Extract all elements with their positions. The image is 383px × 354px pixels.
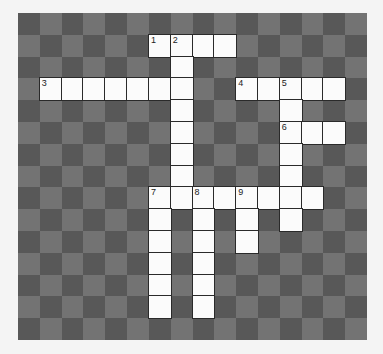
blocked-square	[236, 253, 258, 275]
crossword-cell[interactable]	[171, 144, 193, 166]
crossword-cell[interactable]: 1	[149, 35, 171, 57]
blocked-square	[323, 57, 345, 79]
blocked-square	[83, 318, 105, 340]
crossword-cell[interactable]	[149, 275, 171, 297]
blocked-square	[236, 296, 258, 318]
blocked-square	[236, 57, 258, 79]
crossword-cell[interactable]	[171, 100, 193, 122]
crossword-cell[interactable]	[214, 187, 236, 209]
crossword-cell[interactable]	[193, 253, 215, 275]
crossword-cell[interactable]	[280, 209, 302, 231]
crossword-cell[interactable]	[127, 78, 149, 100]
crossword-cell[interactable]	[149, 209, 171, 231]
blocked-square	[214, 57, 236, 79]
blocked-square	[18, 296, 40, 318]
blocked-square	[214, 13, 236, 35]
blocked-square	[83, 231, 105, 253]
blocked-square	[105, 275, 127, 297]
crossword-cell[interactable]	[214, 35, 236, 57]
clue-number: 4	[238, 79, 243, 88]
crossword-cell[interactable]	[280, 100, 302, 122]
crossword-cell[interactable]	[236, 231, 258, 253]
blocked-square	[105, 100, 127, 122]
blocked-square	[236, 166, 258, 188]
blocked-square	[345, 100, 367, 122]
crossword-cell[interactable]	[149, 78, 171, 100]
clue-number: 5	[282, 79, 287, 88]
blocked-square	[258, 166, 280, 188]
clue-number: 9	[238, 188, 243, 197]
blocked-square	[214, 209, 236, 231]
blocked-square	[40, 318, 62, 340]
crossword-cell[interactable]	[280, 166, 302, 188]
crossword-cell[interactable]: 9	[236, 187, 258, 209]
crossword-cell[interactable]	[171, 166, 193, 188]
crossword-cell[interactable]: 2	[171, 35, 193, 57]
blocked-square	[302, 318, 324, 340]
crossword-cell[interactable]	[193, 209, 215, 231]
crossword-cell[interactable]: 4	[236, 78, 258, 100]
blocked-square	[149, 166, 171, 188]
blocked-square	[18, 187, 40, 209]
crossword-cell[interactable]	[323, 122, 345, 144]
blocked-square	[280, 57, 302, 79]
crossword-cell[interactable]: 3	[40, 78, 62, 100]
crossword-cell[interactable]	[149, 231, 171, 253]
crossword-cell[interactable]	[193, 275, 215, 297]
blocked-square	[83, 166, 105, 188]
crossword-cell[interactable]	[149, 296, 171, 318]
blocked-square	[258, 13, 280, 35]
crossword-cell[interactable]	[171, 78, 193, 100]
blocked-square	[323, 166, 345, 188]
blocked-square	[193, 78, 215, 100]
blocked-square	[127, 209, 149, 231]
crossword-cell[interactable]: 6	[280, 122, 302, 144]
blocked-square	[105, 57, 127, 79]
crossword-cell[interactable]: 8	[193, 187, 215, 209]
crossword-cell[interactable]	[105, 78, 127, 100]
crossword-cell[interactable]	[302, 78, 324, 100]
blocked-square	[214, 144, 236, 166]
crossword-cell[interactable]	[193, 35, 215, 57]
crossword-cell[interactable]	[302, 122, 324, 144]
blocked-square	[40, 13, 62, 35]
blocked-square	[83, 296, 105, 318]
crossword-cell[interactable]	[193, 231, 215, 253]
crossword-cell[interactable]	[193, 296, 215, 318]
crossword-grid: 123456789	[18, 13, 367, 340]
blocked-square	[345, 35, 367, 57]
blocked-square	[18, 166, 40, 188]
blocked-square	[258, 57, 280, 79]
blocked-square	[149, 13, 171, 35]
blocked-square	[236, 100, 258, 122]
blocked-square	[258, 35, 280, 57]
blocked-square	[83, 253, 105, 275]
crossword-cell[interactable]	[258, 187, 280, 209]
crossword-cell[interactable]: 5	[280, 78, 302, 100]
blocked-square	[127, 253, 149, 275]
crossword-cell[interactable]	[236, 209, 258, 231]
blocked-square	[149, 57, 171, 79]
blocked-square	[18, 144, 40, 166]
clue-number: 7	[151, 188, 156, 197]
blocked-square	[280, 13, 302, 35]
crossword-cell[interactable]	[149, 253, 171, 275]
blocked-square	[149, 318, 171, 340]
crossword-cell[interactable]	[62, 78, 84, 100]
crossword-cell[interactable]	[171, 187, 193, 209]
blocked-square	[214, 318, 236, 340]
crossword-cell[interactable]	[280, 187, 302, 209]
crossword-cell[interactable]: 7	[149, 187, 171, 209]
blocked-square	[323, 253, 345, 275]
crossword-cell[interactable]	[280, 144, 302, 166]
crossword-cell[interactable]	[323, 78, 345, 100]
blocked-square	[83, 144, 105, 166]
blocked-square	[258, 231, 280, 253]
crossword-cell[interactable]	[83, 78, 105, 100]
crossword-cell[interactable]	[302, 187, 324, 209]
crossword-cell[interactable]	[171, 57, 193, 79]
blocked-square	[302, 253, 324, 275]
crossword-cell[interactable]	[258, 78, 280, 100]
blocked-square	[127, 231, 149, 253]
crossword-cell[interactable]	[171, 122, 193, 144]
